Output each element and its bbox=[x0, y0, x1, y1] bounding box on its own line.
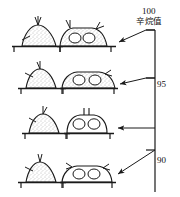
arrow-to-row-2 bbox=[120, 78, 155, 84]
row-4-shape-mound-tall-stippled bbox=[18, 154, 66, 188]
axis-tick-label-95: 95 bbox=[157, 80, 166, 89]
arrow-to-row-4 bbox=[118, 150, 155, 174]
row-3-group bbox=[22, 106, 114, 139]
row-2-group bbox=[18, 61, 118, 94]
figure-canvas: 100 辛烷值 95 90 bbox=[0, 0, 180, 197]
row-1-shape-mound-flat-two-cells bbox=[57, 20, 116, 52]
row-2-shape-mound-wide-two-cells bbox=[60, 70, 118, 94]
arrow-to-row-1 bbox=[119, 30, 155, 42]
row-4-shape-mound-wide-two-cells bbox=[60, 163, 116, 188]
arrow-group bbox=[118, 30, 155, 174]
axis-title-octane: 辛烷值 bbox=[136, 17, 162, 26]
row-3-shape-mound-round-two-cells bbox=[64, 108, 114, 139]
axis-tick-label-90: 90 bbox=[157, 156, 166, 165]
axis-tick-label-100: 100 bbox=[142, 7, 156, 16]
row-3-shape-mound-tall-stippled bbox=[22, 106, 70, 139]
octane-number-axis bbox=[146, 30, 155, 192]
diagram-svg bbox=[0, 0, 180, 197]
row-1-group bbox=[12, 16, 116, 52]
row-1-shape-mound-tall-stippled bbox=[12, 16, 63, 52]
row-4-group bbox=[18, 154, 116, 188]
row-2-shape-mound-tall-stippled bbox=[18, 61, 66, 94]
